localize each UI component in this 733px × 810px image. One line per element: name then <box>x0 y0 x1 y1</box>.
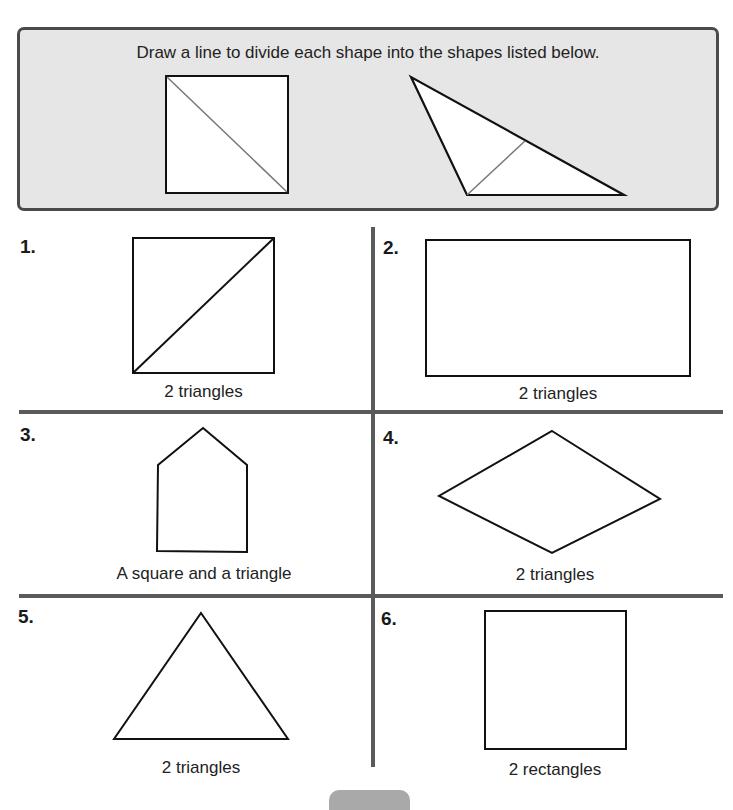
page-number-tab <box>329 790 410 810</box>
problem-6-caption: 2 rectangles <box>480 760 630 780</box>
